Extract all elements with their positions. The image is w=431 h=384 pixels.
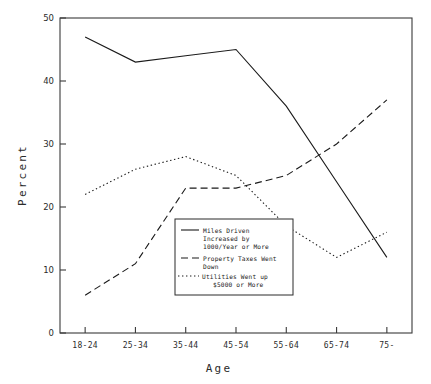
legend-label-0-line1: Miles Driven bbox=[203, 227, 250, 234]
x-tick-label-25-34: 25-34 bbox=[123, 341, 149, 350]
x-axis-ticks bbox=[85, 327, 387, 333]
line-chart: 01020304050 18-2425-3435-4445-5455-6465-… bbox=[0, 0, 431, 384]
legend-label-0-line3: 1000/Year or More bbox=[203, 243, 269, 250]
legend-label-1-line1: Property Taxes Went bbox=[203, 255, 277, 263]
y-tick-label-10: 10 bbox=[43, 265, 54, 275]
y-axis-title: Percent bbox=[16, 144, 29, 206]
y-tick-label-40: 40 bbox=[43, 76, 54, 86]
legend-label-1-line2: Down bbox=[203, 263, 219, 270]
x-axis-title: Age bbox=[206, 362, 232, 375]
y-tick-label-20: 20 bbox=[43, 202, 54, 212]
legend-label-2-line2: $5000 or More bbox=[213, 281, 264, 288]
y-axis-ticks bbox=[60, 18, 66, 333]
legend-label-2-line1: Utilities Went up bbox=[202, 273, 268, 281]
chart-legend: Miles Driven Increased by 1000/Year or M… bbox=[175, 219, 293, 295]
y-tick-label-50: 50 bbox=[43, 13, 54, 23]
x-tick-label-18-24: 18-24 bbox=[72, 341, 98, 350]
y-tick-label-30: 30 bbox=[43, 139, 54, 149]
x-tick-label-45-54: 45-54 bbox=[223, 341, 249, 350]
x-axis-tick-labels: 18-2425-3435-4445-5455-6465-7475- bbox=[72, 341, 394, 350]
y-axis-tick-labels: 01020304050 bbox=[43, 13, 54, 338]
chart-container: 01020304050 18-2425-3435-4445-5455-6465-… bbox=[0, 0, 431, 384]
legend-label-0-line2: Increased by bbox=[203, 235, 250, 243]
x-tick-label-65-74: 65-74 bbox=[324, 341, 350, 350]
x-tick-label-75-: 75- bbox=[379, 341, 394, 350]
y-tick-label-0: 0 bbox=[49, 328, 54, 338]
x-tick-label-55-64: 55-64 bbox=[273, 341, 299, 350]
x-tick-label-35-44: 35-44 bbox=[173, 341, 199, 350]
